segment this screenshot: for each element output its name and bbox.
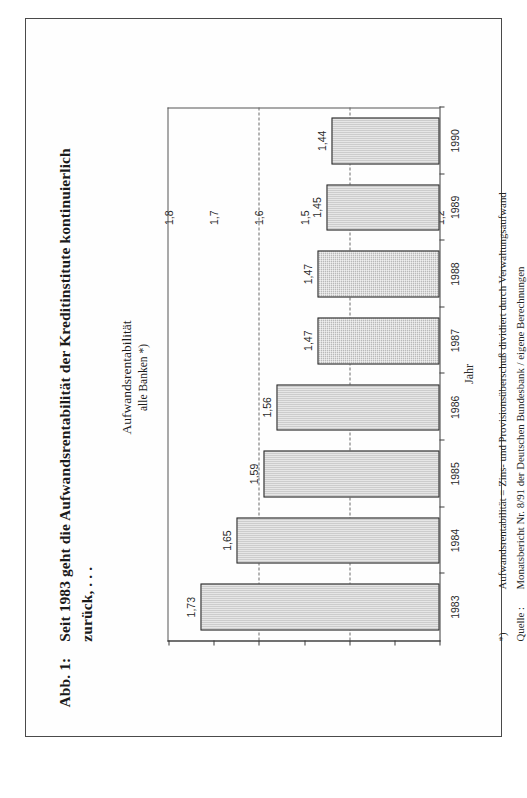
bar-group[interactable]: 1,47 — [168, 250, 439, 297]
bar-value-label: 1,44 — [315, 130, 327, 150]
bar-group[interactable]: 1,65 — [168, 517, 439, 564]
bar-value-label: 1,65 — [220, 530, 232, 550]
category-axis-tick — [439, 572, 444, 573]
bar[interactable] — [317, 250, 439, 297]
bar-group[interactable]: 1,73 — [168, 583, 439, 630]
bar-group[interactable]: 1,44 — [168, 117, 439, 164]
bar-group[interactable]: 1,45 — [168, 184, 439, 231]
footnote-row: *) Aufwandsrentabilität = Zins- und Prov… — [493, 41, 511, 641]
figure-caption: Abb. 1: Seit 1983 geht die Aufwandsrenta… — [53, 57, 98, 707]
bar[interactable] — [263, 450, 439, 497]
category-axis-label: 1985 — [448, 462, 460, 485]
chart-subtitle: alle Banken *) — [135, 167, 151, 587]
category-axis-label: 1990 — [448, 129, 460, 152]
source-label: Quelle : — [511, 589, 527, 641]
category-axis-tick — [439, 239, 444, 240]
category-axis-label: 1983 — [448, 595, 460, 618]
bar-value-label: 1,47 — [301, 330, 313, 350]
chart-title: Aufwandsrentabilität — [118, 320, 133, 434]
category-axis-label: 1989 — [448, 195, 460, 218]
category-axis-label: 1987 — [448, 329, 460, 352]
value-axis-tick — [168, 640, 169, 645]
figure-caption-line-2: zurück, . . . — [75, 57, 97, 641]
source-text: Monatsbericht Nr. 8/91 der Deutschen Bun… — [511, 41, 527, 589]
category-axis-tick — [439, 506, 444, 507]
value-axis-tick — [439, 640, 440, 645]
value-axis-tick — [394, 640, 395, 645]
footnote-text: Aufwandsrentabilität = Zins- und Provisi… — [493, 41, 511, 589]
bar-group[interactable]: 1,56 — [168, 384, 439, 431]
source-row: Quelle : Monatsbericht Nr. 8/91 der Deut… — [511, 41, 527, 641]
category-axis-label: 1988 — [448, 262, 460, 285]
bar-value-label: 1,47 — [301, 263, 313, 283]
rotated-page-content: Abb. 1: Seit 1983 geht die Aufwandsrenta… — [25, 18, 502, 737]
page-border: Abb. 1: Seit 1983 geht die Aufwandsrenta… — [25, 18, 502, 737]
bar-value-label: 1,45 — [310, 197, 322, 217]
bar-value-label: 1,59 — [247, 463, 259, 483]
category-axis-tick — [439, 106, 444, 107]
bar[interactable] — [317, 317, 439, 364]
category-axis-label: 1986 — [448, 395, 460, 418]
bar[interactable] — [200, 583, 439, 630]
bar[interactable] — [236, 517, 439, 564]
bar-group[interactable]: 1,47 — [168, 317, 439, 364]
figure-caption-text: Seit 1983 geht die Aufwandsrentabilität … — [53, 57, 98, 641]
figure-number: Abb. 1: — [53, 641, 75, 707]
bar[interactable] — [326, 184, 439, 231]
bar-value-label: 1,56 — [260, 397, 272, 417]
category-axis-tick — [439, 173, 444, 174]
bar[interactable] — [331, 117, 439, 164]
plot-area: 1,21,31,41,51,61,71,81,7319831,6519841,5… — [168, 107, 439, 640]
category-axis-title: Jahr — [461, 106, 476, 641]
bar[interactable] — [276, 384, 439, 431]
category-axis-tick — [439, 439, 444, 440]
category-axis-tick — [439, 373, 444, 374]
value-axis-tick — [213, 640, 214, 645]
footnotes-block: *) Aufwandsrentabilität = Zins- und Prov… — [493, 41, 527, 641]
category-axis-tick — [439, 306, 444, 307]
figure-caption-line-1: Seit 1983 geht die Aufwandsrentabilität … — [55, 148, 72, 642]
category-axis-label: 1984 — [448, 528, 460, 551]
value-axis-tick — [304, 640, 305, 645]
value-axis-tick — [258, 640, 259, 645]
chart-title-block: Aufwandsrentabilität alle Banken *) — [117, 167, 151, 587]
footnote-marker: *) — [493, 589, 511, 641]
value-axis-tick — [349, 640, 350, 645]
bar-value-label: 1,73 — [184, 596, 196, 616]
bar-group[interactable]: 1,59 — [168, 450, 439, 497]
